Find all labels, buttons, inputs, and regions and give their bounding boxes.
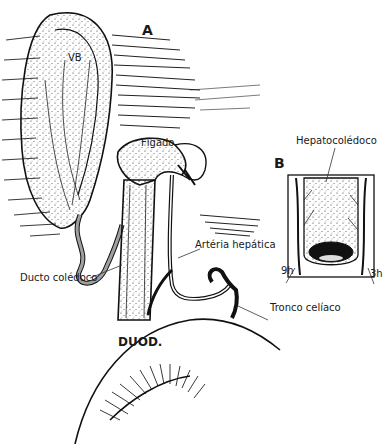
hepatic-artery — [170, 175, 230, 299]
panel-a-label: A — [142, 22, 153, 38]
anatomy-illustration — [0, 0, 390, 444]
duodenum-outline — [75, 319, 280, 444]
duodenum-hatching — [100, 364, 205, 420]
clock-3-label: 3h — [370, 268, 383, 280]
panel-b-label: B — [274, 155, 285, 171]
hepatocholedochus-label: Hepatocolédoco — [296, 135, 377, 147]
gallbladder-shape — [21, 13, 112, 228]
duodenum-label: DUOD. — [118, 335, 162, 349]
liver-label: Fígado — [141, 137, 174, 149]
clock-9-label: 9h — [281, 265, 294, 277]
celiac-trunk-label: Tronco celíaco — [270, 302, 341, 314]
hepatic-artery-label: Artéria hepática — [195, 239, 276, 251]
common-bile-duct-label: Ducto colédoco — [20, 272, 97, 284]
gallbladder-label: VB — [68, 52, 82, 64]
common-bile-duct — [118, 180, 155, 320]
anatomy-figure: A B VB Fígado Artéria hepática Ducto col… — [0, 0, 390, 444]
